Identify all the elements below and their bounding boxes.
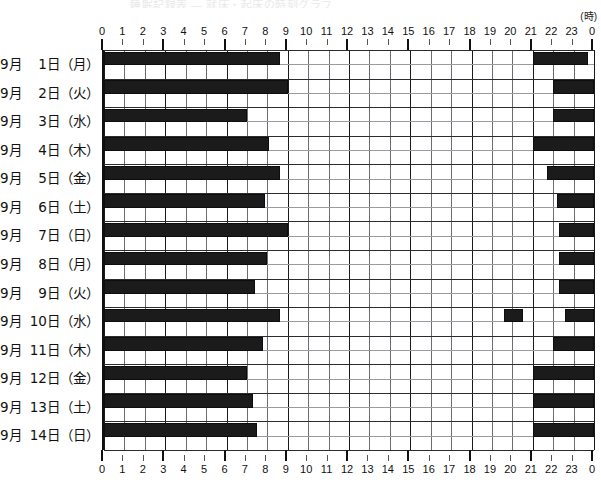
row-label-weekday: （土）: [60, 193, 99, 222]
sleep-bar: [104, 366, 247, 380]
row-label-weekday: （金）: [60, 364, 99, 393]
axis-tick-label: 3: [160, 462, 166, 476]
row-label-month: 9月: [0, 107, 22, 136]
axis-tick-label: 2: [140, 462, 146, 476]
sleep-bar: [559, 280, 594, 294]
axis-tick-label: 5: [201, 462, 207, 476]
row-label-weekday: （月）: [60, 50, 99, 79]
row-label: 9月 6日（土）: [0, 193, 96, 222]
axis-tick-minor: [265, 455, 266, 461]
row-label-day: 6日: [26, 193, 60, 222]
sleep-bar: [104, 309, 280, 323]
axis-tick-major: [591, 450, 593, 461]
chart-caption: 睡眠記録表 ― 就床・起床の時刻グラフ: [130, 0, 460, 8]
axis-tick-minor: [429, 455, 430, 461]
axis-tick-label: 19: [484, 24, 496, 38]
axis-tick-minor: [551, 455, 552, 461]
axis-tick-label: 8: [262, 462, 268, 476]
axis-tick-major: [530, 39, 532, 50]
sleep-bar: [553, 337, 594, 351]
axis-tick-minor: [429, 39, 430, 45]
row-label-day: 13日: [26, 393, 60, 422]
row-label-month: 9月: [0, 336, 22, 365]
row-label-month: 9月: [0, 136, 22, 165]
axis-tick-label: 14: [382, 462, 394, 476]
axis-tick-label: 18: [463, 24, 475, 38]
row-label-weekday: （日）: [60, 421, 99, 450]
sleep-bar: [104, 394, 253, 408]
row-label-weekday: （火）: [60, 79, 99, 108]
sleep-bar: [104, 252, 267, 266]
sleep-bar: [533, 366, 594, 380]
row-label-month: 9月: [0, 393, 22, 422]
sleep-bar: [104, 166, 280, 180]
sleep-bar: [504, 309, 522, 323]
axis-tick-minor: [143, 455, 144, 461]
axis-tick-label: 11: [321, 24, 332, 38]
axis-tick-major: [591, 39, 593, 50]
axis-tick-label: 21: [525, 462, 537, 476]
axis-tick-major: [224, 450, 226, 461]
row-label: 9月 13日（土）: [0, 393, 96, 422]
sleep-bar: [104, 280, 255, 294]
axis-tick-label: 2: [140, 24, 146, 38]
row-label-month: 9月: [0, 250, 22, 279]
row-label: 9月 1日（月）: [0, 50, 96, 79]
axis-tick-minor: [265, 39, 266, 45]
axis-tick-major: [346, 39, 348, 50]
axis-tick-major: [285, 39, 287, 50]
row-label-day: 2日: [26, 79, 60, 108]
row-label: 9月 2日（火）: [0, 79, 96, 108]
axis-tick-label: 4: [181, 462, 187, 476]
axis-tick-label: 22: [545, 462, 557, 476]
axis-tick-minor: [572, 455, 573, 461]
axis-tick-major: [407, 450, 409, 461]
axis-tick-label: 9: [283, 462, 289, 476]
axis-tick-minor: [551, 39, 552, 45]
sleep-bar: [104, 223, 288, 237]
axis-tick-minor: [122, 39, 123, 45]
axis-tick-label: 4: [181, 24, 187, 38]
grid-line-vertical: [594, 50, 595, 450]
axis-tick-major: [224, 39, 226, 50]
sleep-bar: [565, 309, 594, 323]
axis-tick-major: [346, 450, 348, 461]
row-label: 9月 14日（日）: [0, 421, 96, 450]
axis-tick-label: 19: [484, 462, 496, 476]
sleep-bar: [533, 52, 588, 66]
row-label-day: 1日: [26, 50, 60, 79]
row-label-weekday: （月）: [60, 250, 99, 279]
row-label-day: 7日: [26, 221, 60, 250]
row-label-month: 9月: [0, 221, 22, 250]
axis-tick-minor: [245, 39, 246, 45]
axis-tick-label: 12: [341, 24, 353, 38]
axis-tick-minor: [449, 455, 450, 461]
tickmarks-bottom: [0, 450, 601, 461]
axis-tick-label: 1: [119, 462, 125, 476]
row-label-month: 9月: [0, 50, 22, 79]
axis-tick-label: 6: [221, 24, 227, 38]
sleep-bar: [104, 337, 263, 351]
row-label-day: 9日: [26, 279, 60, 308]
row-label-month: 9月: [0, 364, 22, 393]
sleep-bar: [547, 166, 594, 180]
axis-tick-label: 17: [443, 24, 455, 38]
row-label-weekday: （木）: [60, 336, 99, 365]
row-label-weekday: （土）: [60, 393, 99, 422]
axis-tick-major: [162, 450, 164, 461]
axis-tick-minor: [367, 455, 368, 461]
row-label-day: 12日: [26, 364, 60, 393]
axis-tick-label: 16: [423, 24, 435, 38]
row-label-day: 8日: [26, 250, 60, 279]
axis-tick-minor: [245, 455, 246, 461]
sleep-bar: [104, 52, 280, 66]
axis-tick-label: 7: [242, 462, 248, 476]
row-label-day: 14日: [26, 421, 60, 450]
axis-tick-label: 1: [119, 24, 125, 38]
row-label-weekday: （日）: [60, 221, 99, 250]
axis-tick-major: [469, 39, 471, 50]
axis-tick-label: 14: [382, 24, 394, 38]
row-label-month: 9月: [0, 193, 22, 222]
tickmarks-top: [0, 39, 601, 50]
row-label: 9月 3日（水）: [0, 107, 96, 136]
